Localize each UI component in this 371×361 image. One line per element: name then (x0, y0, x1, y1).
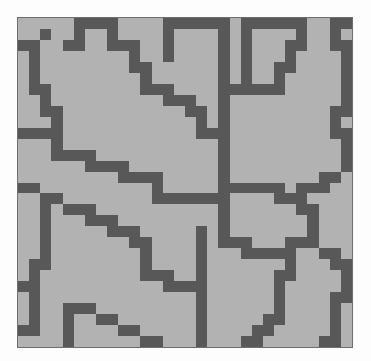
pixel-grid-frame (17, 17, 353, 348)
figure-container (0, 0, 371, 361)
pixel-grid-canvas (18, 18, 352, 347)
